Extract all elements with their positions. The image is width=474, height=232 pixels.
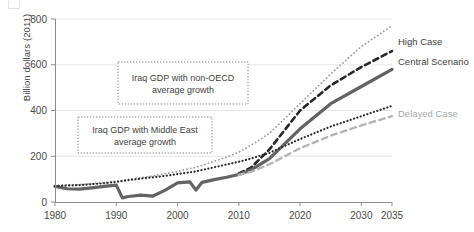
x-tick-label: 1990 xyxy=(105,210,128,221)
x-tick-label: 2035 xyxy=(381,210,404,221)
inline-legend-layer: High CaseCentral ScenarioDelayed Case xyxy=(398,36,469,119)
annotation-text-non-oecd: average growth xyxy=(152,85,214,95)
chart-container: Billion dollars (2011) 0200400600800 198… xyxy=(0,0,474,232)
annotation-box-middle-east xyxy=(78,117,212,153)
annotation-layer: Iraq GDP with non-OECDaverage growthIraq… xyxy=(78,62,248,153)
y-tick-label: 0 xyxy=(41,197,47,208)
x-tick-label: 2000 xyxy=(166,210,189,221)
y-tick-label: 400 xyxy=(30,105,47,116)
annotation-text-middle-east: average growth xyxy=(114,137,176,147)
x-axis-ticks: 1980199020002010202020302035 xyxy=(44,202,404,221)
x-tick-label: 2010 xyxy=(228,210,251,221)
y-tick-label: 800 xyxy=(30,14,47,25)
series-line xyxy=(239,116,392,175)
x-tick-label: 1980 xyxy=(44,210,67,221)
y-tick-label: 200 xyxy=(30,151,47,162)
y-axis-ticks: 0200400600800 xyxy=(30,14,55,208)
legend-label-delayed-case: Delayed Case xyxy=(398,108,458,119)
annotation-text-non-oecd: Iraq GDP with non-OECD xyxy=(132,73,235,83)
data-series-layer xyxy=(55,26,392,198)
series-line xyxy=(55,26,392,186)
x-tick-label: 2030 xyxy=(350,210,373,221)
y-tick-label: 600 xyxy=(30,59,47,70)
x-tick-label: 2020 xyxy=(289,210,312,221)
annotation-box-non-oecd xyxy=(118,62,248,104)
annotation-text-middle-east: Iraq GDP with Middle East xyxy=(92,125,198,135)
legend-label-central-scenario: Central Scenario xyxy=(398,56,469,67)
line-chart-plot: 0200400600800 19801990200020102020203020… xyxy=(0,0,474,232)
legend-label-high-case: High Case xyxy=(398,36,442,47)
